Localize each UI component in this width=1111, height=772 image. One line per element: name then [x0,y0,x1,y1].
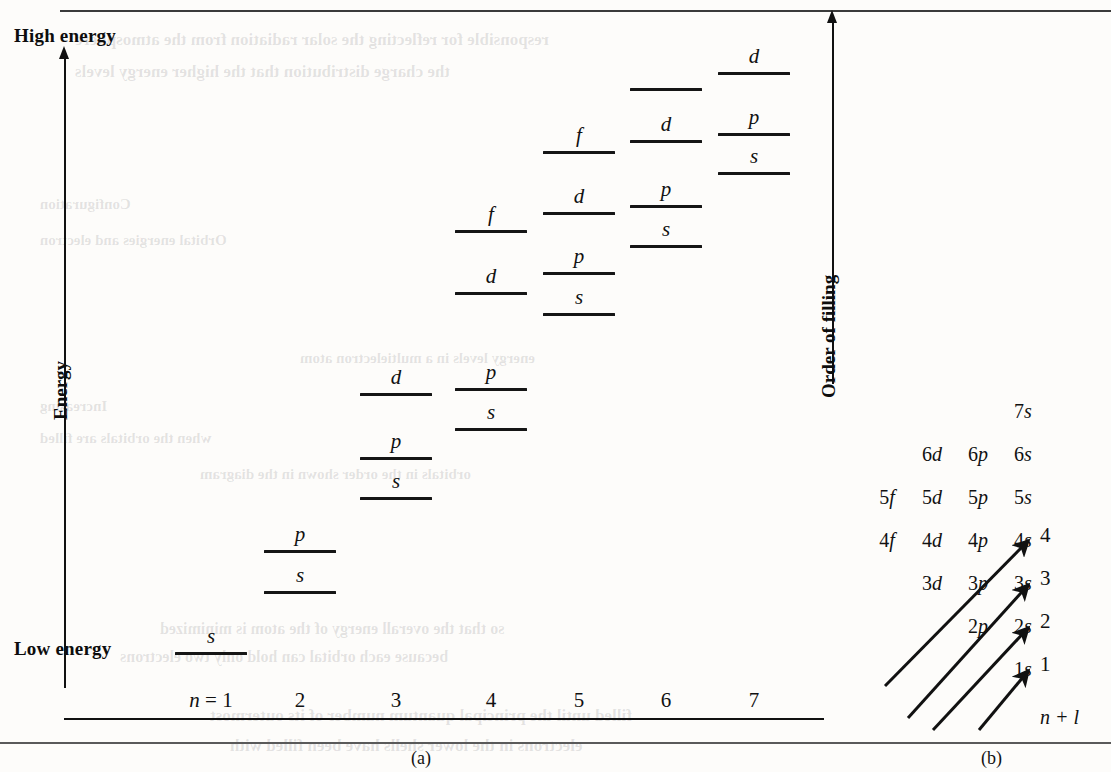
filling-order-arrow-2 [933,627,1029,730]
filling-order-arrow-1 [979,670,1029,730]
arrow-number-3: 3 [1040,566,1051,591]
orbital-energy-figure: High energy Low energy Energy sspspdspdf… [0,0,1111,772]
n-plus-l-text: n + l [1040,706,1079,728]
arrow-number-1: 1 [1040,652,1051,677]
arrow-number-4: 4 [1040,523,1051,548]
madelung-arrows [0,0,1111,772]
filling-order-arrow-3 [908,584,1029,718]
n-plus-l-label: n + l [1040,706,1079,729]
panel-b-caption: (b) [981,748,1002,769]
arrow-number-2: 2 [1040,609,1051,634]
